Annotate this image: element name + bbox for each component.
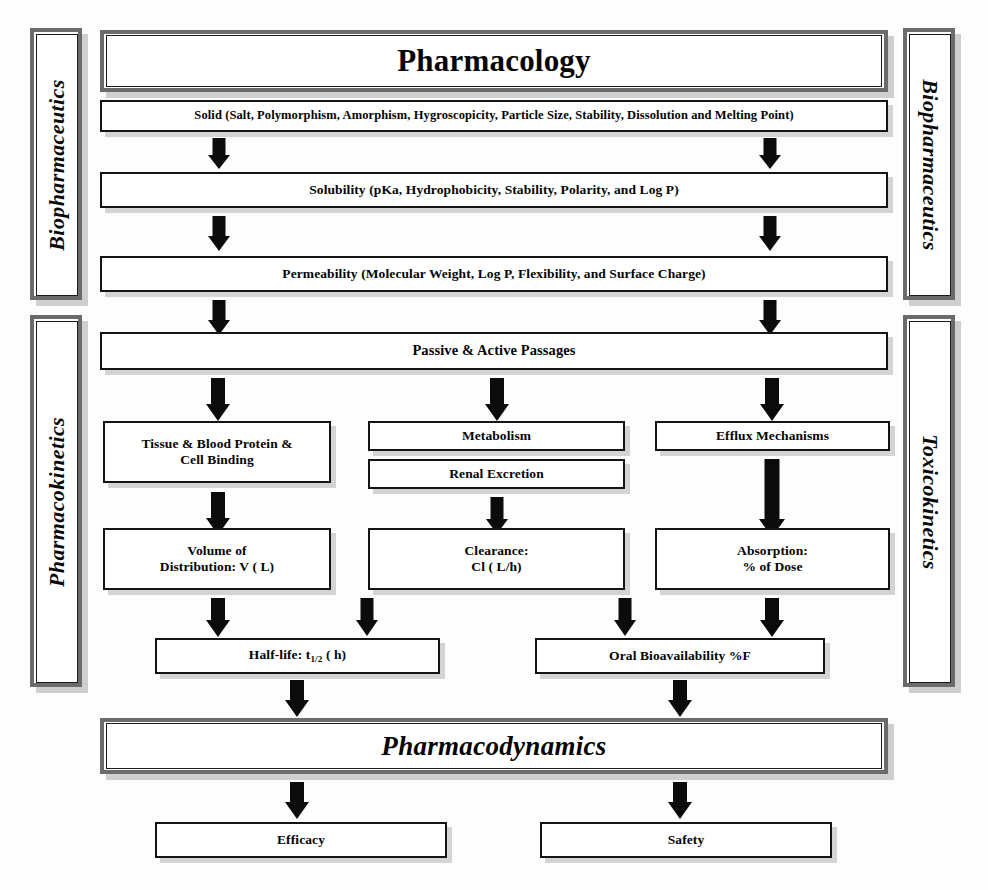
node-clearance-line1: Clearance:	[465, 543, 529, 559]
node-half-life: Half-life: t1/2 ( h)	[155, 638, 440, 674]
side-label-right-biopharmaceutics-text: Biopharmaceutics	[917, 79, 943, 250]
node-solubility: Solubility (pKa, Hydrophobicity, Stabili…	[100, 172, 888, 208]
node-pharmacology-inner: Pharmacology	[106, 35, 882, 87]
node-solid-label: Solid (Salt, Polymorphism, Amorphism, Hy…	[194, 108, 793, 123]
node-pharmacology-label: Pharmacology	[397, 42, 591, 80]
side-label-left-biopharmaceutics-inner: Biopharmaceutics	[36, 34, 78, 296]
node-half-life-label: Half-life: t1/2 ( h)	[249, 647, 346, 665]
node-volume-line2: Distribution: V ( L)	[160, 559, 274, 575]
node-efflux-mechanisms: Efflux Mechanisms	[655, 421, 890, 451]
pharmacology-flowchart: Biopharmaceutics Pharmacokinetics Biopha…	[0, 0, 988, 890]
node-metabolism: Metabolism	[368, 421, 625, 451]
node-absorption-line1: Absorption:	[737, 543, 808, 559]
node-safety-label: Safety	[668, 832, 705, 848]
node-pharmacodynamics: Pharmacodynamics	[100, 718, 888, 774]
side-label-right-biopharmaceutics: Biopharmaceutics	[903, 28, 955, 300]
side-label-left-biopharmaceutics-text: Biopharmaceutics	[44, 79, 70, 250]
node-passive-active-passages: Passive & Active Passages	[100, 332, 888, 370]
side-label-right-toxicokinetics-inner: Toxicokinetics	[909, 321, 951, 683]
node-pharmacology: Pharmacology	[100, 30, 888, 92]
node-oral-bioavailability-label: Oral Bioavailability %F	[609, 648, 751, 664]
node-clearance-line2: Cl ( L/h)	[471, 559, 521, 575]
node-half-life-prefix: Half-life: t	[249, 647, 311, 662]
node-tissue-blood-protein-cell-binding: Tissue & Blood Protein & Cell Binding	[103, 421, 331, 483]
node-renal-excretion: Renal Excretion	[368, 459, 625, 489]
node-solubility-label: Solubility (pKa, Hydrophobicity, Stabili…	[309, 182, 679, 198]
side-label-left-pharmacokinetics-inner: Pharmacokinetics	[36, 321, 78, 683]
node-passive-active-passages-label: Passive & Active Passages	[412, 342, 575, 360]
node-clearance: Clearance: Cl ( L/h)	[368, 528, 625, 590]
side-label-right-biopharmaceutics-inner: Biopharmaceutics	[909, 34, 951, 296]
node-safety: Safety	[540, 822, 832, 858]
node-efflux-mechanisms-label: Efflux Mechanisms	[716, 428, 829, 444]
node-renal-excretion-label: Renal Excretion	[449, 466, 544, 482]
node-pharmacodynamics-inner: Pharmacodynamics	[106, 723, 882, 769]
node-solid: Solid (Salt, Polymorphism, Amorphism, Hy…	[100, 100, 888, 132]
node-absorption: Absorption: % of Dose	[655, 528, 890, 590]
node-pharmacodynamics-label: Pharmacodynamics	[381, 730, 606, 763]
node-permeability-label: Permeability (Molecular Weight, Log P, F…	[282, 266, 705, 282]
node-oral-bioavailability: Oral Bioavailability %F	[535, 638, 825, 674]
node-absorption-line2: % of Dose	[742, 559, 802, 575]
node-half-life-suffix: ( h)	[322, 647, 346, 662]
side-label-left-pharmacokinetics: Pharmacokinetics	[30, 315, 82, 687]
side-label-left-biopharmaceutics: Biopharmaceutics	[30, 28, 82, 300]
node-tissue-binding-line1: Tissue & Blood Protein &	[141, 436, 292, 452]
side-label-left-pharmacokinetics-text: Pharmacokinetics	[44, 417, 70, 587]
node-efficacy: Efficacy	[155, 822, 447, 858]
node-metabolism-label: Metabolism	[462, 428, 531, 444]
node-volume-line1: Volume of	[187, 543, 246, 559]
node-permeability: Permeability (Molecular Weight, Log P, F…	[100, 256, 888, 292]
node-tissue-binding-line2: Cell Binding	[180, 452, 254, 468]
side-label-right-toxicokinetics: Toxicokinetics	[903, 315, 955, 687]
side-label-right-toxicokinetics-text: Toxicokinetics	[917, 434, 943, 570]
node-volume-of-distribution: Volume of Distribution: V ( L)	[103, 528, 331, 590]
node-efficacy-label: Efficacy	[277, 832, 325, 848]
node-half-life-subscript: 1/2	[310, 654, 322, 664]
